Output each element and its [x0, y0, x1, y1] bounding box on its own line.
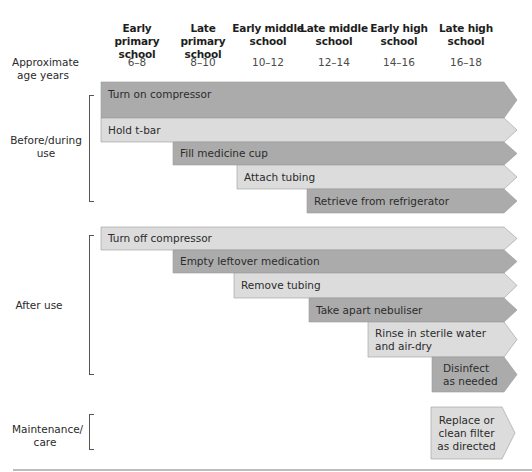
arrow-chevron-icon	[101, 118, 517, 142]
task-bar: Replace orclean filteras directed	[431, 407, 515, 459]
section-bracket-before-during	[89, 95, 94, 202]
task-label: Empty leftover medication	[180, 255, 320, 268]
task-label: Replace orclean filteras directed	[431, 414, 502, 453]
task-bar: Attach tubing	[237, 165, 517, 189]
column-header: Early high school	[363, 22, 435, 48]
task-label: Turn on compressor	[108, 88, 211, 101]
column-header: Late middle school	[298, 22, 370, 48]
bottom-rule	[13, 469, 532, 471]
task-label: Turn off compressor	[108, 232, 212, 245]
task-label: Fill medicine cup	[180, 147, 268, 160]
section-bracket-maintenance	[89, 414, 94, 450]
task-label: Disinfectas needed	[443, 362, 498, 388]
section-bracket-after-use	[89, 235, 94, 375]
task-bar: Retrieve from refrigerator	[307, 189, 517, 213]
task-label: Take apart nebuliser	[316, 304, 422, 317]
age-range: 10–12	[238, 56, 298, 68]
task-label: Attach tubing	[244, 171, 315, 184]
age-range: 8–10	[173, 56, 233, 68]
task-bar: Disinfectas needed	[432, 357, 517, 392]
task-bar: Hold t-bar	[101, 118, 517, 142]
task-bar: Take apart nebuliser	[309, 298, 517, 322]
age-range: 12–14	[304, 56, 364, 68]
task-bar: Turn on compressor	[101, 82, 517, 118]
section-label-before-during: Before/during use	[10, 134, 82, 160]
age-row-label: Approximate age years	[12, 56, 74, 82]
task-label: Hold t-bar	[108, 124, 161, 137]
column-header: Late high school	[430, 22, 502, 48]
task-bar: Empty leftover medication	[173, 250, 517, 273]
task-bar: Turn off compressor	[101, 227, 517, 250]
task-label: Retrieve from refrigerator	[314, 195, 449, 208]
age-range: 14–16	[369, 56, 429, 68]
task-label: Remove tubing	[241, 279, 321, 292]
section-label-after-use: After use	[14, 299, 64, 312]
section-label-maintenance: Maintenance/ care	[12, 423, 78, 449]
column-header: Early middle school	[232, 22, 304, 48]
task-bar: Fill medicine cup	[173, 142, 517, 165]
task-bar: Rinse in sterile waterand air-dry	[368, 322, 517, 357]
task-bar: Remove tubing	[234, 273, 517, 298]
age-range: 6–8	[107, 56, 167, 68]
age-range: 16–18	[436, 56, 496, 68]
task-label: Rinse in sterile waterand air-dry	[375, 327, 486, 353]
